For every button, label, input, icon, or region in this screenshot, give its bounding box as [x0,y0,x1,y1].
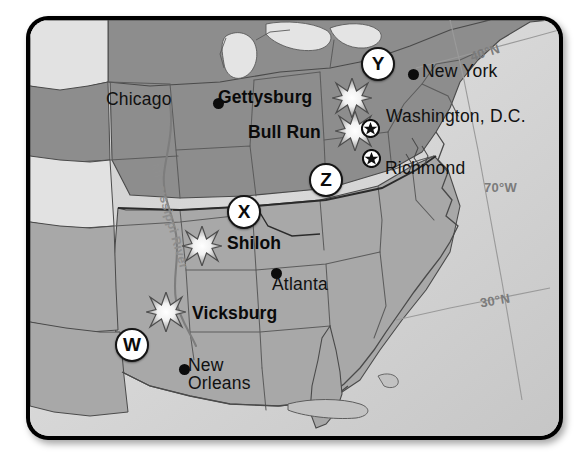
city-label-chicago: Chicago [106,90,172,108]
map-geography [30,20,559,436]
quiz-marker-y[interactable]: Y [361,47,395,81]
battle-star-vicksburg[interactable] [146,292,186,332]
battle-label-bull-run: Bull Run [248,123,321,141]
capital-marker-washington-dc[interactable] [361,119,380,138]
battle-label-shiloh: Shiloh [227,234,281,252]
quiz-marker-x[interactable]: X [227,195,261,229]
city-label-richmond: Richmond [385,159,465,177]
map-frame: Mississippi River 40°N 70°W 30°N Chicago… [26,16,563,440]
map-viewport[interactable]: Mississippi River 40°N 70°W 30°N Chicago… [30,20,559,436]
city-label-atlanta: Atlanta [272,275,328,293]
city-label-new-orleans: New Orleans [188,357,278,393]
quiz-marker-w[interactable]: W [115,328,149,362]
battle-label-vicksburg: Vicksburg [192,304,277,322]
capital-marker-richmond[interactable] [362,149,381,168]
battle-star-shiloh[interactable] [182,226,222,266]
grid-label-70w: 70°W [484,181,517,195]
map-screenshot: Mississippi River 40°N 70°W 30°N Chicago… [0,0,587,454]
city-dot-new-york[interactable] [408,69,419,80]
city-label-washington-dc: Washington, D.C. [386,107,526,125]
battle-label-gettysburg: Gettysburg [218,88,312,106]
quiz-marker-z[interactable]: Z [309,163,343,197]
city-label-new-york: New York [422,62,498,80]
